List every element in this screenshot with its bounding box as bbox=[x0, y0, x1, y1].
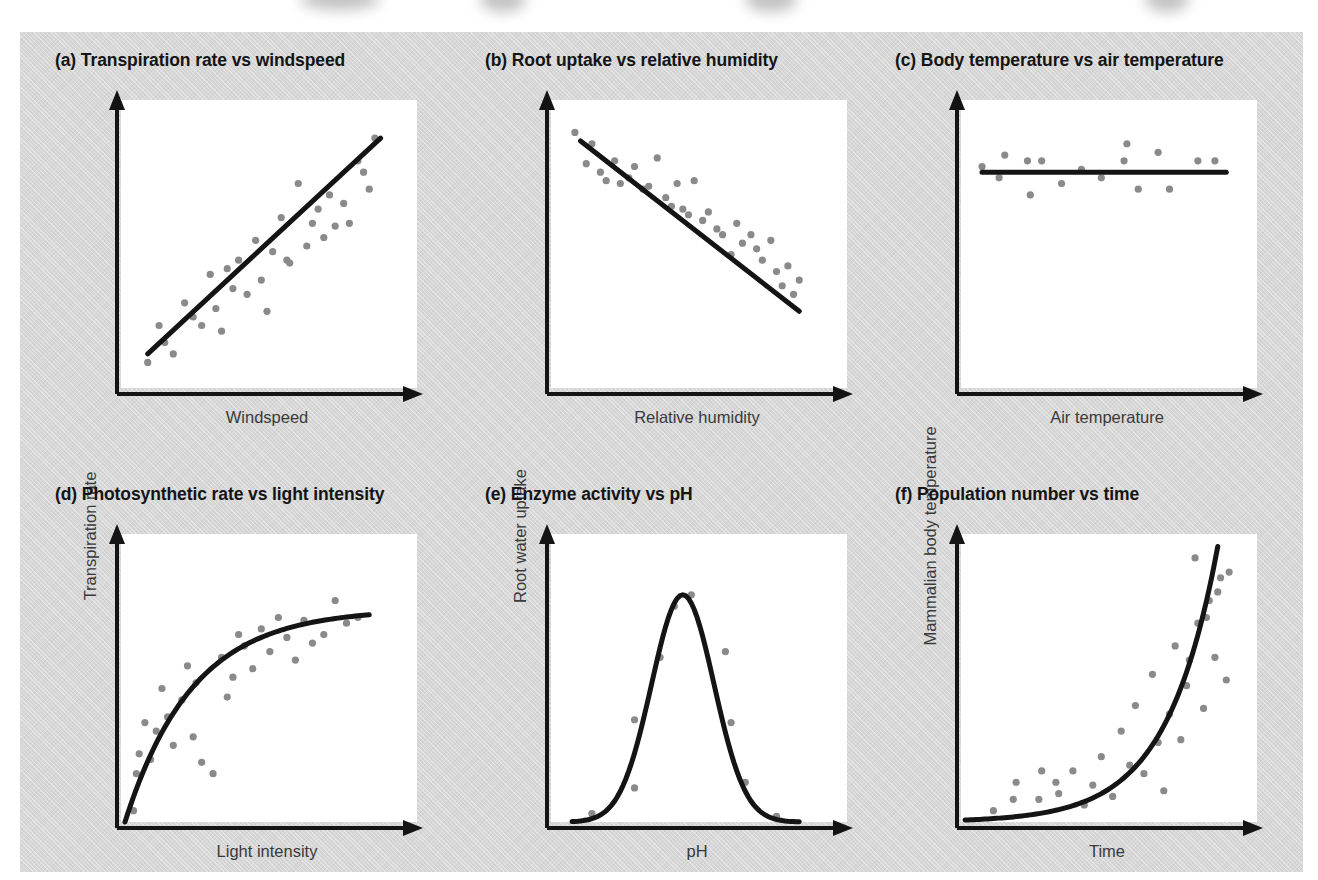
data-point bbox=[645, 183, 652, 190]
data-point bbox=[1166, 186, 1173, 193]
data-point bbox=[1172, 642, 1179, 649]
x-axis-label-e: pH bbox=[547, 842, 847, 861]
data-point bbox=[244, 291, 251, 298]
data-point bbox=[278, 214, 285, 221]
data-point bbox=[1211, 654, 1218, 661]
data-point bbox=[1001, 152, 1008, 159]
data-point bbox=[722, 648, 729, 655]
data-point bbox=[1027, 191, 1034, 198]
chart-title-c: (c) Body temperature vs air temperature bbox=[895, 50, 1224, 71]
data-point bbox=[753, 245, 760, 252]
data-point bbox=[631, 784, 638, 791]
data-point bbox=[796, 276, 803, 283]
data-point bbox=[266, 648, 273, 655]
data-point bbox=[1052, 779, 1059, 786]
data-point bbox=[1069, 767, 1076, 774]
data-point bbox=[1058, 180, 1065, 187]
data-point bbox=[158, 685, 165, 692]
chart-cell-b: (b) Root uptake vs relative humidityRoot… bbox=[485, 50, 885, 450]
chart-cell-c: (c) Body temperature vs air temperatureM… bbox=[895, 50, 1295, 450]
plot-area-a: Transpiration rateWindspeed bbox=[55, 84, 455, 434]
x-axis-arrow-icon bbox=[1243, 820, 1263, 836]
data-point bbox=[685, 211, 692, 218]
data-point bbox=[224, 265, 231, 272]
data-point bbox=[141, 719, 148, 726]
data-point bbox=[1013, 779, 1020, 786]
data-point bbox=[713, 225, 720, 232]
data-point bbox=[136, 750, 143, 757]
data-point bbox=[1055, 790, 1062, 797]
data-point bbox=[790, 291, 797, 298]
data-point bbox=[1118, 728, 1125, 735]
data-point bbox=[320, 234, 327, 241]
data-point bbox=[1226, 568, 1233, 575]
figure-root: (a) Transpiration rate vs windspeedTrans… bbox=[0, 0, 1318, 880]
x-axis-label-c: Air temperature bbox=[957, 408, 1257, 427]
data-point bbox=[662, 194, 669, 201]
data-point bbox=[1109, 793, 1116, 800]
y-axis-label-f: Population number bbox=[921, 824, 940, 880]
data-point bbox=[631, 716, 638, 723]
data-point bbox=[679, 205, 686, 212]
data-point bbox=[1211, 157, 1218, 164]
data-point bbox=[315, 205, 322, 212]
data-point bbox=[1089, 781, 1096, 788]
data-point bbox=[286, 259, 293, 266]
data-point bbox=[1155, 149, 1162, 156]
data-point bbox=[346, 220, 353, 227]
data-point bbox=[1200, 705, 1207, 712]
data-point bbox=[170, 742, 177, 749]
plot-area-d: Rate of photosynthesisLight intensity bbox=[55, 518, 455, 868]
data-point bbox=[309, 639, 316, 646]
plot-area-c: Mammalian body temperatureAir temperatur… bbox=[895, 84, 1295, 434]
data-point bbox=[309, 220, 316, 227]
data-point bbox=[303, 242, 310, 249]
data-point bbox=[654, 154, 661, 161]
data-point bbox=[1160, 787, 1167, 794]
data-point bbox=[184, 662, 191, 669]
data-point bbox=[229, 285, 236, 292]
chart-title-a: (a) Transpiration rate vs windspeed bbox=[55, 50, 345, 71]
data-point bbox=[1024, 157, 1031, 164]
panel-grid: (a) Transpiration rate vs windspeedTrans… bbox=[20, 32, 1303, 872]
chart-title-d: (d) Photosynthetic rate vs light intensi… bbox=[55, 484, 384, 505]
chart-cell-a: (a) Transpiration rate vs windspeedTrans… bbox=[55, 50, 455, 450]
y-axis-label-d: Rate of photosynthesis bbox=[81, 824, 100, 880]
data-point bbox=[207, 271, 214, 278]
data-point bbox=[691, 177, 698, 184]
data-point bbox=[360, 169, 367, 176]
data-point bbox=[326, 191, 333, 198]
smudge-decor-1 bbox=[300, 0, 380, 10]
data-point bbox=[1191, 554, 1198, 561]
data-point bbox=[995, 174, 1002, 181]
data-point bbox=[224, 693, 231, 700]
data-point bbox=[1214, 588, 1221, 595]
data-point bbox=[292, 657, 299, 664]
x-axis-label-f: Time bbox=[957, 842, 1257, 861]
data-point bbox=[1217, 574, 1224, 581]
data-point bbox=[779, 282, 786, 289]
chart-title-b: (b) Root uptake vs relative humidity bbox=[485, 50, 778, 71]
chart-title-e: (e) Enzyme activity vs pH bbox=[485, 484, 693, 505]
data-point bbox=[1140, 770, 1147, 777]
data-point bbox=[1035, 796, 1042, 803]
x-axis-label-b: Relative humidity bbox=[547, 408, 847, 427]
data-point bbox=[990, 807, 997, 814]
data-point bbox=[767, 237, 774, 244]
data-point bbox=[1098, 753, 1105, 760]
data-point bbox=[198, 759, 205, 766]
data-point bbox=[705, 208, 712, 215]
data-point bbox=[674, 180, 681, 187]
data-point bbox=[1135, 186, 1142, 193]
chart-cell-d: (d) Photosynthetic rate vs light intensi… bbox=[55, 484, 455, 880]
data-point bbox=[727, 719, 734, 726]
data-point bbox=[340, 200, 347, 207]
data-point bbox=[1149, 671, 1156, 678]
data-point bbox=[190, 733, 197, 740]
data-point bbox=[212, 305, 219, 312]
data-point bbox=[733, 220, 740, 227]
chart-cell-e: (e) Enzyme activity vs pHEnzyme activity… bbox=[485, 484, 885, 880]
smudge-decor-3 bbox=[745, 0, 797, 12]
data-point bbox=[603, 177, 610, 184]
data-point bbox=[617, 180, 624, 187]
